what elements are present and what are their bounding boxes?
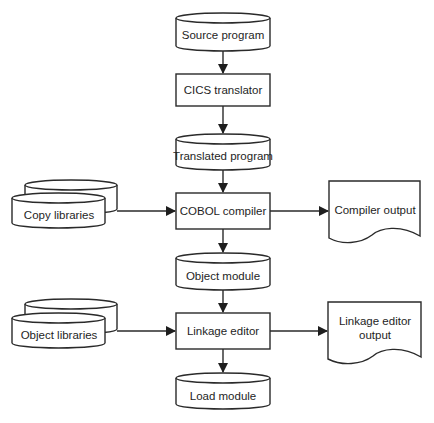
object-module-label: Object module	[186, 270, 260, 282]
translated-program-label: Translated program	[173, 150, 273, 162]
flowchart-canvas: Source program CICS translator Translate…	[0, 0, 434, 423]
copy-libraries-label: Copy libraries	[24, 209, 95, 221]
linkage-editor-output-label-line2: output	[359, 329, 392, 341]
translated-program-node: Translated program	[173, 134, 273, 170]
cics-translator-node: CICS translator	[176, 74, 270, 106]
linkage-editor-label: Linkage editor	[187, 325, 259, 337]
copy-libraries-node: Copy libraries	[12, 180, 117, 228]
compiler-output-label: Compiler output	[334, 204, 416, 216]
linkage-editor-output-label-line1: Linkage editor	[339, 315, 411, 327]
linkage-editor-node: Linkage editor	[176, 313, 270, 349]
load-module-label: Load module	[190, 390, 257, 402]
load-module-node: Load module	[176, 373, 270, 409]
linkage-editor-output-node: Linkage editor output	[328, 302, 421, 364]
object-libraries-node: Object libraries	[12, 299, 117, 348]
object-module-node: Object module	[176, 253, 270, 290]
cobol-compiler-label: COBOL compiler	[180, 205, 267, 217]
source-program-node: Source program	[176, 13, 270, 51]
compiler-output-node: Compiler output	[329, 181, 420, 243]
source-program-label: Source program	[182, 29, 264, 41]
object-libraries-label: Object libraries	[21, 329, 98, 341]
cics-translator-label: CICS translator	[184, 84, 263, 96]
cobol-compiler-node: COBOL compiler	[176, 193, 270, 229]
